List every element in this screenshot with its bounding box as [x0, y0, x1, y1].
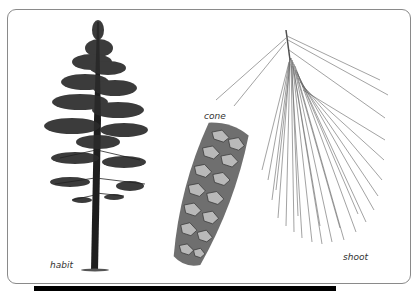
habit-label: habit: [50, 260, 73, 270]
cone-illustration: [162, 118, 252, 272]
habit-tree-illustration: [44, 20, 148, 272]
bottom-bar: [34, 286, 336, 291]
botanical-illustration: [0, 0, 419, 291]
cone-label: cone: [204, 111, 226, 121]
shoot-label: shoot: [343, 252, 368, 262]
